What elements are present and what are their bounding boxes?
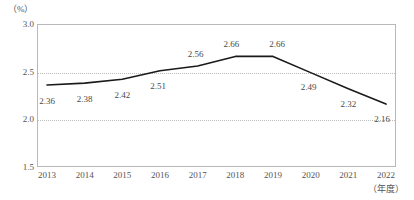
chart-page: （%） 3.02.52.01.5 2.362.382.422.512.562.6… <box>0 0 414 200</box>
y-axis-unit-label: （%） <box>8 2 34 15</box>
data-series-line <box>37 24 396 167</box>
y-axis-tick-2.5: 2.5 <box>4 67 34 77</box>
x-axis-tick-labels: 2013201420152016201720182019202020212022… <box>37 170 396 200</box>
x-axis-tick-2022: 2022 <box>377 170 395 180</box>
x-axis-tick-2013: 2013 <box>38 170 56 180</box>
x-axis-caption: （年度） <box>368 182 404 195</box>
y-axis-tick-labels: 3.02.52.01.5 <box>0 24 34 167</box>
x-axis-tick-2019: 2019 <box>264 170 282 180</box>
x-axis-tick-2015: 2015 <box>113 170 131 180</box>
series-polyline <box>47 56 386 104</box>
x-axis-tick-2020: 2020 <box>302 170 320 180</box>
y-axis-tick-1.5: 1.5 <box>4 162 34 172</box>
x-axis-tick-2021: 2021 <box>339 170 357 180</box>
x-axis-tick-2014: 2014 <box>76 170 94 180</box>
x-axis-tick-2017: 2017 <box>189 170 207 180</box>
y-axis-tick-2.0: 2.0 <box>4 114 34 124</box>
x-axis-tick-2016: 2016 <box>151 170 169 180</box>
x-axis-tick-2018: 2018 <box>226 170 244 180</box>
y-axis-tick-3.0: 3.0 <box>4 19 34 29</box>
